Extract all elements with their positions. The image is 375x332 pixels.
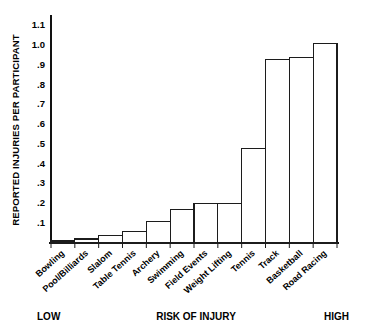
x-category-label: Tennis xyxy=(229,248,257,274)
bar xyxy=(242,148,266,243)
y-axis-title: REPORTED INJURIES PER PARTICIPANT xyxy=(10,34,21,226)
y-tick-label: 1.1 xyxy=(32,19,46,30)
y-tick-label: .9 xyxy=(37,59,45,70)
y-tick-label: .6 xyxy=(37,118,45,129)
bar xyxy=(289,57,313,243)
chart-canvas: REPORTED INJURIES PER PARTICIPANT .1.2.3… xyxy=(0,0,375,332)
bar xyxy=(266,59,290,243)
risk-scale-footer: LOW RISK OF INJURY HIGH xyxy=(37,311,349,322)
y-tick-label: 1.0 xyxy=(32,39,45,50)
bar xyxy=(99,235,123,243)
bar xyxy=(51,241,75,243)
bar xyxy=(123,231,147,243)
x-axis-category-labels: BowlingPool/BilliardsSlalomTable TennisA… xyxy=(34,247,329,295)
injury-risk-bar-chart: REPORTED INJURIES PER PARTICIPANT .1.2.3… xyxy=(0,0,375,332)
y-axis-tick-labels: .1.2.3.4.5.6.7.8.91.01.1 xyxy=(32,19,46,227)
y-tick-label: .8 xyxy=(37,79,45,90)
footer-low-label: LOW xyxy=(37,311,61,322)
bars-group xyxy=(51,44,337,243)
footer-high-label: HIGH xyxy=(324,311,349,322)
bar xyxy=(170,209,194,243)
y-axis-title-text: REPORTED INJURIES PER PARTICIPANT xyxy=(10,34,21,226)
bar xyxy=(75,239,99,243)
y-tick-label: .2 xyxy=(37,197,45,208)
y-tick-label: .4 xyxy=(37,158,46,169)
bar xyxy=(194,204,218,243)
y-tick-label: .5 xyxy=(37,138,46,149)
bar xyxy=(313,44,337,243)
y-tick-label: .3 xyxy=(37,177,45,188)
bar xyxy=(146,221,170,243)
y-tick-label: .7 xyxy=(37,98,45,109)
y-tick-label: .1 xyxy=(37,217,46,228)
footer-middle-label: RISK OF INJURY xyxy=(156,311,236,322)
bar xyxy=(218,204,242,243)
